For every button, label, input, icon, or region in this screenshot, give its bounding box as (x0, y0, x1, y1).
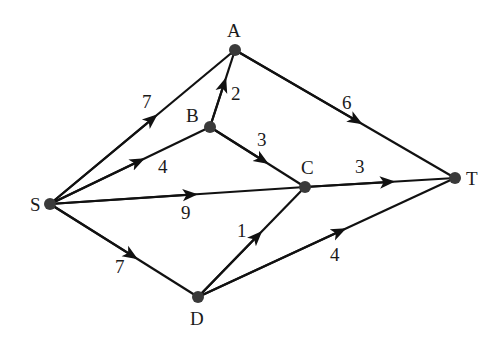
node-label: A (227, 20, 241, 41)
edge-c-t: 3 (305, 156, 455, 187)
node-dot-icon (229, 44, 241, 56)
node-s: S (30, 194, 56, 215)
edge-weight-label: 6 (342, 92, 352, 113)
node-label: B (186, 105, 199, 126)
node-dot-icon (204, 121, 216, 133)
arrow-icon (305, 182, 388, 187)
arrow-icon (198, 232, 339, 297)
node-label: T (466, 168, 478, 189)
edge-weight-label: 3 (257, 129, 267, 150)
node-dot-icon (449, 172, 461, 184)
arrow-icon (50, 195, 190, 204)
arrow-icon (235, 50, 356, 120)
edge-weight-label: 7 (115, 256, 125, 277)
edge-b-c: 3 (210, 127, 305, 187)
edge-b-a: 2 (210, 50, 241, 127)
edge-s-c: 9 (50, 187, 305, 223)
edge-s-d: 7 (50, 204, 198, 297)
arrow-icon (210, 85, 224, 127)
node-label: C (301, 157, 314, 178)
edges-layer: 7497236314 (50, 50, 455, 297)
node-label: S (30, 194, 41, 215)
edge-weight-label: 9 (181, 202, 191, 223)
node-label: D (190, 308, 204, 329)
edge-weight-label: 3 (355, 156, 365, 177)
node-dot-icon (192, 291, 204, 303)
edge-d-c: 1 (198, 187, 305, 297)
node-d: D (190, 291, 204, 329)
node-a: A (227, 20, 241, 56)
arrow-icon (198, 237, 257, 298)
node-dot-icon (44, 198, 56, 210)
edge-weight-label: 4 (330, 244, 340, 265)
edge-a-t: 6 (235, 50, 455, 178)
edge-weight-label: 7 (142, 91, 152, 112)
node-t: T (449, 168, 478, 189)
edge-weight-label: 2 (231, 83, 241, 104)
node-dot-icon (299, 181, 311, 193)
nodes-layer: SABCTD (30, 20, 478, 329)
edge-weight-label: 1 (237, 220, 247, 241)
network-graph: 7497236314 SABCTD (0, 0, 492, 344)
arrow-icon (50, 204, 131, 255)
edge-weight-label: 4 (158, 156, 168, 177)
arrow-icon (210, 127, 262, 160)
